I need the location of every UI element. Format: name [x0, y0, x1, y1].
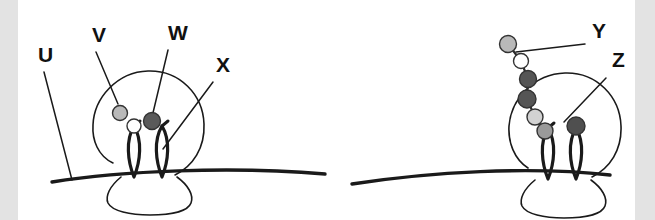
vesicle-chain-5	[527, 109, 543, 125]
vesicle-light-left	[113, 106, 128, 121]
leader-u	[44, 72, 72, 180]
vesicle-dark-right	[567, 117, 585, 135]
vesicle-chain-4	[518, 90, 536, 108]
right-synapse-panel	[352, 36, 621, 219]
plasma-membrane-left	[52, 170, 325, 182]
plasma-membrane-right	[352, 171, 610, 184]
labels-group: UVWXYZ	[38, 19, 625, 76]
label-x: X	[216, 53, 230, 76]
vesicles-right	[500, 36, 586, 140]
vesicle-white-left	[127, 119, 141, 133]
synapse-diagram: UVWXYZ	[0, 0, 655, 220]
label-z: Z	[612, 48, 625, 71]
label-w: W	[168, 21, 188, 44]
presynaptic-terminal-right	[509, 73, 621, 177]
leader-x	[163, 82, 213, 149]
leader-y	[516, 44, 585, 52]
vesicle-chain-2	[514, 54, 529, 69]
vesicle-chain-3	[520, 71, 537, 88]
postsynaptic-spine-right	[521, 180, 606, 218]
leader-w	[152, 50, 168, 117]
postsynaptic-spine-left	[107, 177, 192, 215]
figure-root: UVWXYZ	[0, 0, 655, 220]
vesicle-chain-6	[537, 123, 553, 139]
leader-v	[96, 52, 118, 104]
label-y: Y	[592, 19, 606, 42]
vesicle-chain-1	[500, 36, 517, 53]
receptor-loop-left-2-stem	[162, 121, 168, 126]
label-v: V	[92, 23, 106, 46]
vesicle-dark-left	[144, 113, 161, 130]
receptor-loop-left-2	[156, 126, 167, 177]
left-synapse-panel	[52, 71, 325, 215]
label-u: U	[38, 43, 53, 66]
